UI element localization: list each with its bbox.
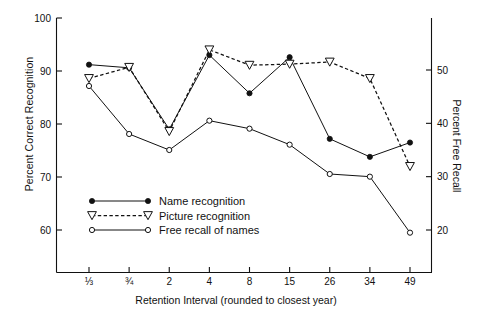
y-axis-right-tick-label: 40 <box>437 118 449 129</box>
x-axis-tick-label: 26 <box>324 276 336 287</box>
series-picture-recognition <box>85 46 415 171</box>
data-point-open-triangle <box>245 61 254 69</box>
y-axis-right-tick-label: 20 <box>437 225 449 236</box>
legend-label: Name recognition <box>159 195 245 207</box>
chart-legend: Name recognitionPicture recognitionFree … <box>88 195 260 236</box>
data-point-open-triangle <box>325 58 334 66</box>
data-point-open-circle <box>86 83 91 88</box>
data-point-open-circle <box>287 142 292 147</box>
x-axis-tick-label: 15 <box>284 276 296 287</box>
y-axis-left-ticks <box>57 18 63 230</box>
data-point-filled-circle <box>89 198 94 203</box>
y-axis-right-tick-label: 50 <box>437 65 449 76</box>
data-series-layer <box>85 46 415 235</box>
data-point-filled-circle <box>86 62 91 67</box>
legend-item-free-recall-of-names[interactable]: Free recall of names <box>89 224 259 236</box>
line-chart: 10090807060 50403020 ⅓¾24815263449 Name … <box>0 0 479 316</box>
data-point-open-circle <box>407 230 412 235</box>
x-axis-tick-label: 8 <box>247 276 253 287</box>
y-axis-left-tick-label: 80 <box>40 119 52 130</box>
data-point-open-circle <box>167 147 172 152</box>
legend-label: Picture recognition <box>159 210 250 222</box>
data-point-filled-circle <box>247 91 252 96</box>
y-axis-left-tick-labels: 10090807060 <box>34 13 51 236</box>
x-axis-tick-label: 49 <box>404 276 416 287</box>
x-axis-tick-label: 4 <box>207 276 213 287</box>
y-axis-left-tick-label: 90 <box>40 66 52 77</box>
data-point-open-triangle <box>165 128 174 136</box>
data-point-open-circle <box>127 131 132 136</box>
y-axis-right-tick-label: 30 <box>437 171 449 182</box>
data-point-open-triangle <box>205 46 214 54</box>
data-point-filled-circle <box>287 55 292 60</box>
legend-label: Free recall of names <box>159 224 260 236</box>
y-axis-left-tick-label: 60 <box>40 225 52 236</box>
data-point-open-triangle <box>365 75 374 83</box>
data-point-filled-circle <box>327 136 332 141</box>
data-point-open-circle <box>367 174 372 179</box>
data-point-open-triangle <box>406 163 415 171</box>
data-point-filled-circle <box>367 154 372 159</box>
legend-item-picture-recognition[interactable]: Picture recognition <box>88 210 251 222</box>
x-axis-tick-label: ¾ <box>125 276 134 287</box>
x-axis-tick-label: 2 <box>166 276 172 287</box>
y-axis-left-tick-label: 100 <box>34 13 51 24</box>
x-axis-tick-label: 34 <box>364 276 376 287</box>
y-axis-right-tick-labels: 50403020 <box>437 65 449 236</box>
y-axis-right-ticks <box>426 70 432 230</box>
legend-item-name-recognition[interactable]: Name recognition <box>89 195 245 207</box>
data-point-filled-circle <box>145 198 150 203</box>
data-point-open-circle <box>145 227 150 232</box>
data-point-open-circle <box>327 171 332 176</box>
data-point-open-circle <box>207 118 212 123</box>
x-axis-ticks <box>89 267 410 273</box>
data-point-filled-circle <box>407 140 412 145</box>
data-point-open-triangle <box>85 75 94 83</box>
y-axis-left-tick-label: 70 <box>40 172 52 183</box>
x-axis-tick-label: ⅓ <box>85 276 94 287</box>
x-axis-tick-labels: ⅓¾24815263449 <box>85 276 416 287</box>
data-point-open-circle <box>247 126 252 131</box>
data-point-open-circle <box>89 227 94 232</box>
